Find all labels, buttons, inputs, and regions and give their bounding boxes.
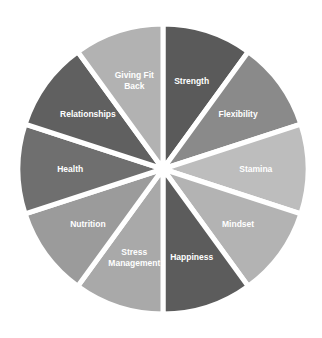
fitness-wheel-diagram: StrengthFlexibilityStaminaMindsetHappine…	[0, 0, 322, 338]
center-hub	[154, 160, 172, 178]
segment-label: Mindset	[222, 219, 254, 229]
segment-label: Strength	[174, 76, 209, 86]
segment-label: Stamina	[239, 164, 272, 174]
segment-label: Health	[57, 164, 83, 174]
segment-label: Flexibility	[218, 109, 257, 119]
segment-label: Happiness	[170, 252, 213, 262]
segment-label: Relationships	[60, 109, 116, 119]
segment-label: Nutrition	[70, 219, 105, 229]
